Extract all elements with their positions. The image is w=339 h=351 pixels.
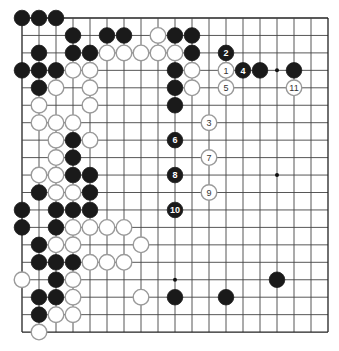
black-stone [65,254,81,270]
white-stone [65,185,81,201]
white-stone [133,289,149,305]
black-stone: 2 [218,45,234,61]
black-stone [31,254,47,270]
black-stone-icon [184,28,200,44]
white-stone [48,132,64,148]
white-stone-icon [116,254,132,270]
white-stone: 1 [218,63,234,79]
white-stone [65,237,81,253]
go-board: 2145113678910 [0,0,339,351]
white-stone-icon [14,272,30,288]
move-number-label: 11 [289,83,298,93]
move-number-label: 1 [223,66,228,76]
star-point-icon [275,173,279,177]
white-stone-icon [150,28,166,44]
black-stone-icon [184,45,200,61]
white-stone [82,132,98,148]
black-stone [286,63,302,79]
black-stone-icon [167,80,183,96]
black-stone-icon [167,28,183,44]
white-stone: 5 [218,80,234,96]
white-stone: 3 [201,115,217,131]
white-stone-icon [48,150,64,166]
black-stone-icon [82,185,98,201]
white-stone [31,324,47,340]
white-stone [65,272,81,288]
white-stone: 11 [286,80,302,96]
black-stone-icon [116,28,132,44]
white-stone-icon [82,220,98,236]
black-stone-icon [31,237,47,253]
black-stone-icon [48,220,64,236]
white-stone-icon [133,289,149,305]
black-stone-icon [31,63,47,79]
white-stone-icon [48,132,64,148]
white-stone [150,28,166,44]
black-stone-icon [167,63,183,79]
white-stone [65,307,81,323]
black-stone-icon [65,132,81,148]
white-stone [150,45,166,61]
black-stone [48,202,64,218]
black-stone-icon [269,272,285,288]
star-point-icon [173,278,177,282]
white-stone-icon [31,115,47,131]
black-stone-icon [31,307,47,323]
black-stone [167,63,183,79]
white-stone-icon [48,167,64,183]
black-stone [184,28,200,44]
black-stone [31,63,47,79]
move-number-label: 2 [223,48,228,58]
black-stone [82,185,98,201]
black-stone-icon [31,10,47,26]
white-stone-icon [99,254,115,270]
black-stone-icon [31,254,47,270]
black-stone: 4 [235,63,251,79]
star-point-icon [275,68,279,72]
black-stone-icon [48,254,64,270]
white-stone [48,185,64,201]
white-stone-icon [48,237,64,253]
black-stone-icon [31,185,47,201]
black-stone [252,63,268,79]
black-stone [167,80,183,96]
white-stone-icon [184,80,200,96]
black-stone [65,28,81,44]
black-stone [31,10,47,26]
black-stone [82,202,98,218]
black-stone [167,97,183,113]
black-stone [167,289,183,305]
white-stone [184,63,200,79]
white-stone [99,45,115,61]
black-stone [31,45,47,61]
black-stone-icon [14,220,30,236]
white-stone [48,80,64,96]
white-stone-icon [82,132,98,148]
white-stone [31,167,47,183]
white-stone [184,80,200,96]
black-stone [48,10,64,26]
white-stone-icon [116,45,132,61]
black-stone [65,150,81,166]
move-number-label: 3 [206,118,211,128]
white-stone-icon [65,307,81,323]
black-stone [82,45,98,61]
white-stone: 9 [201,185,217,201]
black-stone [14,10,30,26]
white-stone-icon [65,272,81,288]
white-stone-icon [116,220,132,236]
move-number-label: 8 [172,170,177,180]
white-stone-icon [99,45,115,61]
black-stone [31,237,47,253]
white-stone-icon [82,80,98,96]
black-stone-icon [82,167,98,183]
white-stone-icon [133,237,149,253]
white-stone [99,254,115,270]
move-number-label: 10 [170,205,180,215]
black-stone [31,289,47,305]
white-stone [14,272,30,288]
black-stone [184,45,200,61]
black-stone-icon [65,45,81,61]
black-stone [31,185,47,201]
black-stone-icon [48,289,64,305]
